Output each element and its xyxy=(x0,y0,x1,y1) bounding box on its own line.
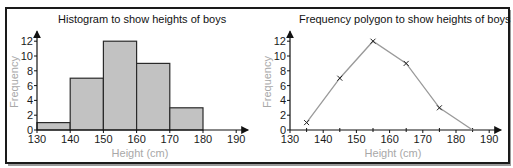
polygon-series xyxy=(304,39,473,130)
x-tick-label: 180 xyxy=(447,133,465,145)
histogram-bar xyxy=(37,123,70,130)
y-tick-label: 2 xyxy=(280,109,286,121)
y-tick-label: 6 xyxy=(27,80,33,92)
polygon-y-axis-label: Frequency xyxy=(261,56,273,108)
cross-marker-icon xyxy=(337,76,342,81)
x-tick-label: 140 xyxy=(314,133,332,145)
histogram-bars xyxy=(37,41,203,130)
frequency-polygon-chart: Frequency polygon to show heights of boy… xyxy=(261,13,511,159)
histogram-y-axis: 024681012 xyxy=(21,31,37,136)
x-tick-label: 140 xyxy=(61,133,79,145)
polygon-line xyxy=(307,41,473,130)
histogram-title: Histogram to show heights of boys xyxy=(58,13,227,25)
y-tick-label: 8 xyxy=(280,65,286,77)
y-tick-label: 10 xyxy=(274,50,286,62)
y-tick-label: 12 xyxy=(21,35,33,47)
histogram-y-axis-label: Frequency xyxy=(8,56,20,108)
x-tick-label: 180 xyxy=(194,133,212,145)
x-tick-label: 170 xyxy=(161,133,179,145)
y-tick-label: 10 xyxy=(21,50,33,62)
x-tick-label: 160 xyxy=(127,133,145,145)
x-tick-label: 130 xyxy=(281,133,299,145)
y-tick-label: 4 xyxy=(27,94,33,106)
cross-marker-icon xyxy=(304,120,309,125)
histogram-x-axis-label: Height (cm) xyxy=(112,147,169,159)
cross-marker-icon xyxy=(437,105,442,110)
polygon-x-axis: 130140150160170180190 xyxy=(281,128,501,145)
histogram-x-axis: 130140150160170180190 xyxy=(28,130,248,145)
polygon-x-axis-label: Height (cm) xyxy=(365,147,422,159)
x-tick-label: 130 xyxy=(28,133,46,145)
y-tick-label: 8 xyxy=(27,65,33,77)
x-tick-label: 170 xyxy=(414,133,432,145)
histogram-bar xyxy=(103,41,136,130)
y-tick-label: 12 xyxy=(274,35,286,47)
histogram-chart: Histogram to show heights of boys 024681… xyxy=(8,13,248,159)
x-tick-label: 160 xyxy=(380,133,398,145)
y-tick-label: 6 xyxy=(280,80,286,92)
cross-marker-icon xyxy=(404,61,409,66)
histogram-bar xyxy=(170,108,203,130)
charts-canvas: Histogram to show heights of boys 024681… xyxy=(0,0,513,168)
polygon-title: Frequency polygon to show heights of boy… xyxy=(299,13,511,25)
y-tick-label: 2 xyxy=(27,109,33,121)
y-tick-label: 4 xyxy=(280,94,286,106)
histogram-bar xyxy=(70,78,103,130)
x-tick-label: 190 xyxy=(227,133,245,145)
polygon-y-axis: 024681012 xyxy=(274,31,290,136)
x-tick-label: 190 xyxy=(480,133,498,145)
x-tick-label: 150 xyxy=(347,133,365,145)
histogram-bar xyxy=(137,63,170,130)
x-tick-label: 150 xyxy=(94,133,112,145)
cross-marker-icon xyxy=(371,39,376,44)
